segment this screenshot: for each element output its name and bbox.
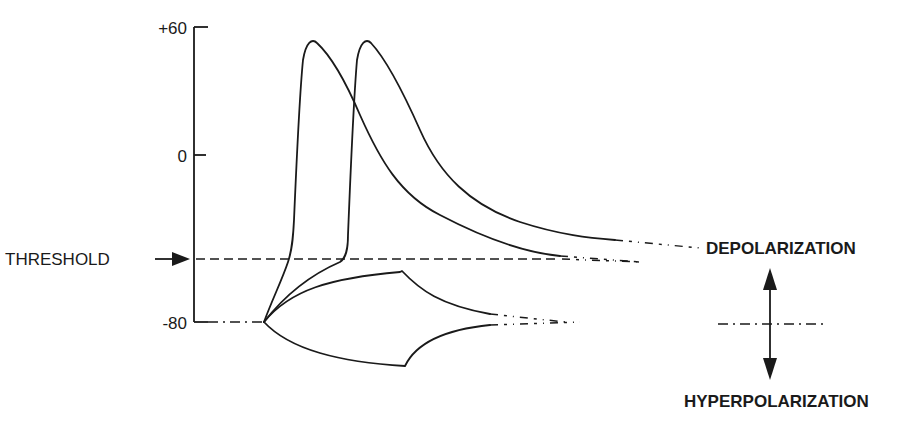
threshold-label: THRESHOLD bbox=[5, 250, 110, 269]
threshold-marker: THRESHOLD bbox=[5, 250, 640, 269]
membrane-potential-diagram: +60 0 -80 THRESHOLD DEPOLARIZATION HYPER… bbox=[0, 0, 901, 426]
arrow-down-icon bbox=[763, 358, 777, 380]
y-axis: +60 0 -80 bbox=[158, 19, 208, 333]
tick-label-plus60: +60 bbox=[158, 19, 187, 38]
polarity-legend: DEPOLARIZATION HYPERPOLARIZATION bbox=[684, 239, 869, 411]
hyperpolarization-curve bbox=[264, 322, 490, 366]
action-potential-2 bbox=[264, 41, 615, 322]
hyperpolarization-label: HYPERPOLARIZATION bbox=[684, 392, 869, 411]
tick-label-zero: 0 bbox=[178, 147, 187, 166]
arrow-up-icon bbox=[763, 268, 777, 290]
threshold-arrow-icon bbox=[172, 252, 190, 266]
depolarization-label: DEPOLARIZATION bbox=[706, 239, 856, 258]
tick-label-minus80: -80 bbox=[162, 314, 187, 333]
subthreshold-depolarization bbox=[264, 271, 490, 322]
